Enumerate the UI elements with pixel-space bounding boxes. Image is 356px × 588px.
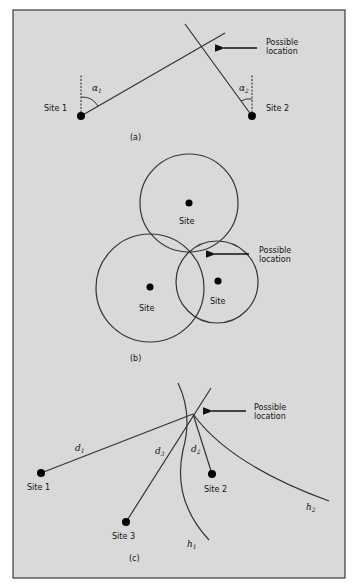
panel-b-caption: (b) <box>130 354 141 363</box>
site2-dot-c <box>208 470 216 478</box>
site2-label-c: Site 2 <box>204 485 227 494</box>
site-top-dot <box>186 200 193 207</box>
site-right-dot <box>215 278 222 285</box>
figure-frame <box>13 10 345 578</box>
site3-label-c: Site 3 <box>112 532 135 541</box>
possible-location-label-b: Possible location <box>259 246 294 264</box>
site1-dot-c <box>37 469 45 477</box>
panel-a-caption: (a) <box>130 133 141 142</box>
site-left-label: Site <box>139 304 154 313</box>
panel-c-caption: (c) <box>129 554 140 563</box>
possible-location-label-a: Possible location <box>266 38 301 56</box>
site2-dot <box>248 112 256 120</box>
positioning-methods-figure: Site 1 Site 2 α1 α2 Possible location (a… <box>0 0 356 588</box>
site-right-label: Site <box>210 297 225 306</box>
site1-label-c: Site 1 <box>27 483 50 492</box>
site-left-dot <box>147 284 154 291</box>
site1-label: Site 1 <box>44 104 67 113</box>
site3-dot-c <box>122 518 130 526</box>
possible-location-label-c: Possible location <box>254 403 289 421</box>
site-top-label: Site <box>179 217 194 226</box>
site1-dot <box>77 112 85 120</box>
site2-label: Site 2 <box>266 104 289 113</box>
